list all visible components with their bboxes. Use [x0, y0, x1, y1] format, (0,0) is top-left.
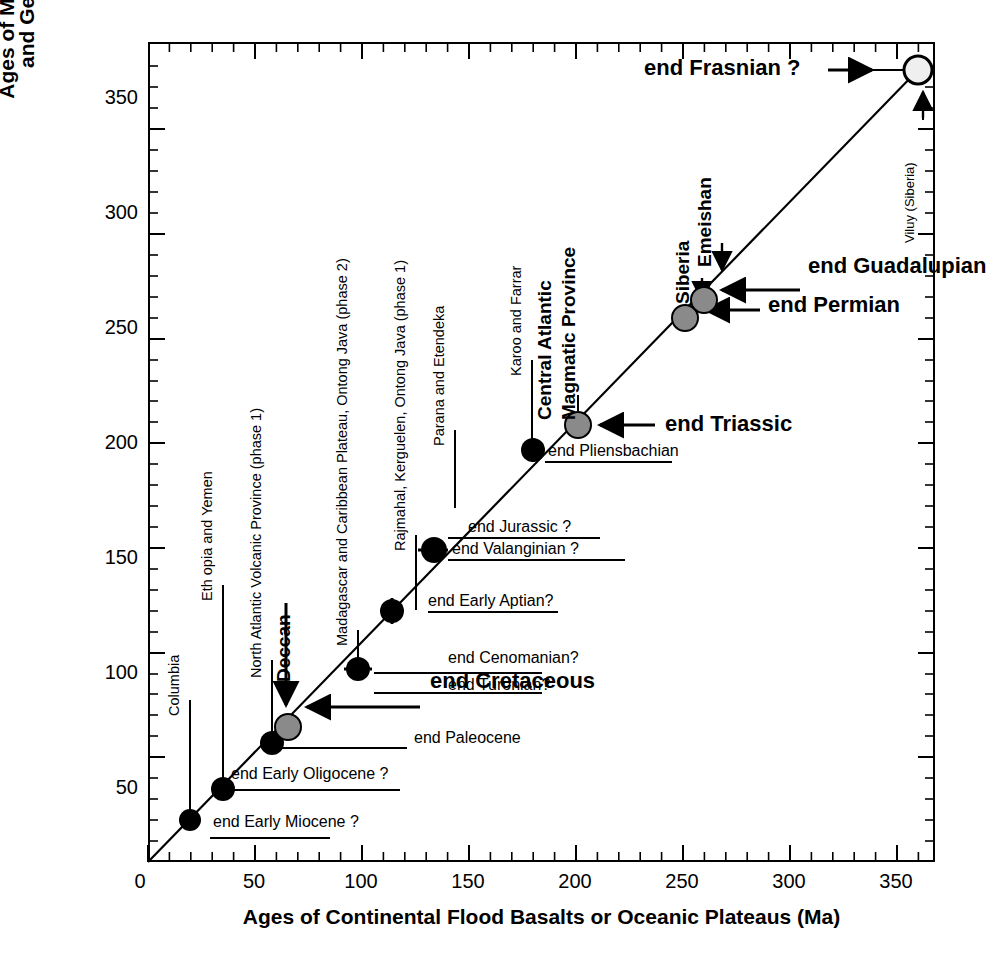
x-tick-text-100: 100 — [344, 870, 377, 892]
label-end-valanginian: end Valanginian ? — [452, 540, 579, 558]
label-end-frasnian-text: end Frasnian ? — [644, 55, 800, 80]
y-tick-label-250: 250 — [92, 316, 138, 339]
x-tick-text-300: 300 — [772, 870, 805, 892]
x-tick-text-150: 150 — [451, 870, 484, 892]
y-tick-label-350: 350 — [92, 86, 138, 109]
y-tick-text-100: 100 — [105, 661, 138, 683]
y-tick-text-50: 50 — [116, 776, 138, 798]
label-camp-line1: Central Atlantic — [534, 280, 556, 420]
label-end-early-miocene: end Early Miocene ? — [213, 813, 359, 831]
label-viluy: Viluy (Siberia) — [902, 162, 917, 243]
x-tick-text-50: 50 — [243, 870, 265, 892]
label-madagascar: Madagascar and Caribbean Plateau, Ontong… — [334, 258, 350, 646]
y-tick-label-100: 100 — [92, 661, 138, 684]
label-end-jurassic: end Jurassic ? — [468, 518, 571, 536]
label-karoo: Karoo and Farrar — [508, 266, 524, 376]
label-rajmahal: Rajmahal, Kerguelen, Ontong Java (phase … — [392, 260, 408, 551]
label-ethiopia-text: Eth opia and Yemen — [199, 471, 215, 601]
y-tick-label-150: 150 — [92, 546, 138, 569]
x-tick-text-350: 350 — [879, 870, 912, 892]
label-end-cenomanian: end Cenomanian? — [448, 649, 579, 667]
label-camp-line1-text: Central Atlantic — [534, 280, 555, 420]
x-tick-text-200: 200 — [558, 870, 591, 892]
label-end-permian: end Permian — [768, 292, 900, 318]
label-north-atlantic-text: North Atlantic Volcanic Province (phase … — [248, 408, 264, 678]
label-parana-text: Parana and Etendeka — [431, 306, 447, 446]
label-rajmahal-text: Rajmahal, Kerguelen, Ontong Java (phase … — [392, 260, 408, 551]
x-axis-title-text: Ages of Continental Flood Basalts or Oce… — [243, 905, 840, 928]
label-viluy-text: Viluy (Siberia) — [902, 162, 917, 243]
label-ethiopia: Eth opia and Yemen — [199, 471, 215, 601]
y-tick-text-150: 150 — [105, 546, 138, 568]
label-columbia: Columbia — [166, 655, 182, 716]
label-end-paleocene: end Paleocene — [414, 729, 521, 747]
label-siberia: Siberia — [672, 241, 694, 304]
label-karoo-text: Karoo and Farrar — [508, 266, 524, 376]
label-end-triassic-text: end Triassic — [665, 411, 792, 436]
label-emeishan-text: Emeishan — [694, 177, 715, 267]
label-end-early-oligocene: end Early Oligocene ? — [231, 765, 388, 783]
label-end-early-aptian-text: end Early Aptian? — [428, 592, 553, 609]
label-madagascar-text: Madagascar and Caribbean Plateau, Ontong… — [334, 258, 350, 646]
label-end-jurassic-text: end Jurassic ? — [468, 518, 571, 535]
label-end-turonian: end Turonian? — [448, 676, 550, 694]
label-end-early-oligocene-text: end Early Oligocene ? — [231, 765, 388, 782]
y-tick-label-200: 200 — [92, 431, 138, 454]
x-axis-title: Ages of Continental Flood Basalts or Oce… — [148, 905, 935, 929]
y-axis-title-line2-text: and Geological Time Scale Boundaries (Ma… — [15, 0, 38, 68]
label-camp-line2: Magmatic Province — [558, 247, 580, 420]
x-tick-label-300: 300 — [766, 870, 812, 893]
x-tick-label-0: 0 — [125, 870, 155, 893]
label-end-early-miocene-text: end Early Miocene ? — [213, 813, 359, 830]
plot-area — [148, 42, 935, 862]
label-end-pliensbachian-text: end Pliensbachian — [548, 442, 679, 459]
y-axis-title-line2: and Geological Time Scale Boundaries (Ma… — [14, 0, 39, 150]
x-tick-label-150: 150 — [445, 870, 491, 893]
label-end-guadalupian: end Guadalupian — [808, 253, 986, 279]
label-end-permian-text: end Permian — [768, 292, 900, 317]
label-siberia-text: Siberia — [672, 241, 693, 304]
x-tick-label-350: 350 — [873, 870, 919, 893]
label-parana: Parana and Etendeka — [431, 306, 447, 446]
label-end-early-aptian: end Early Aptian? — [428, 592, 553, 610]
label-end-cenomanian-text: end Cenomanian? — [448, 649, 579, 666]
label-end-frasnian: end Frasnian ? — [644, 55, 800, 81]
label-emeishan: Emeishan — [694, 177, 716, 267]
label-north-atlantic: North Atlantic Volcanic Province (phase … — [248, 408, 264, 678]
label-camp-line2-text: Magmatic Province — [558, 247, 579, 420]
y-tick-text-350: 350 — [105, 86, 138, 108]
y-tick-text-300: 300 — [105, 201, 138, 223]
label-deccan-text: Deccan — [273, 614, 294, 682]
y-tick-label-50: 50 — [92, 776, 138, 799]
x-tick-text-250: 250 — [665, 870, 698, 892]
x-tick-label-200: 200 — [552, 870, 598, 893]
label-deccan: Deccan — [273, 614, 295, 682]
y-tick-text-200: 200 — [105, 431, 138, 453]
x-tick-text-0: 0 — [134, 870, 145, 892]
x-tick-label-50: 50 — [234, 870, 274, 893]
label-columbia-text: Columbia — [166, 655, 182, 716]
label-end-paleocene-text: end Paleocene — [414, 729, 521, 746]
y-tick-text-250: 250 — [105, 316, 138, 338]
y-tick-label-300: 300 — [92, 201, 138, 224]
x-tick-label-100: 100 — [338, 870, 384, 893]
label-end-pliensbachian: end Pliensbachian — [548, 442, 679, 460]
label-end-turonian-text: end Turonian? — [448, 676, 550, 693]
x-tick-label-250: 250 — [659, 870, 705, 893]
label-end-valanginian-text: end Valanginian ? — [452, 540, 579, 557]
label-end-guadalupian-text: end Guadalupian — [808, 253, 986, 278]
label-end-triassic: end Triassic — [665, 411, 792, 437]
